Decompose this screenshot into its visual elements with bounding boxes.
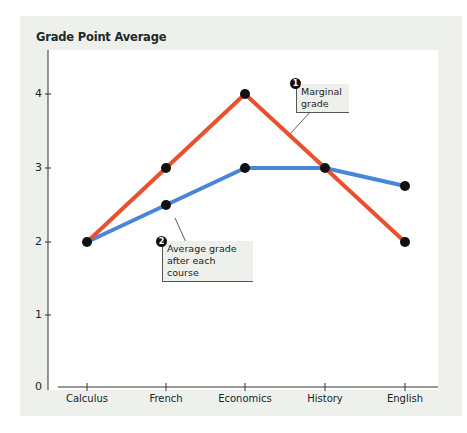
x-tick-label: History — [285, 393, 365, 404]
callout-text: grade — [301, 98, 343, 110]
y-tick-label: 3 — [28, 161, 42, 174]
marginal-leader-line — [290, 110, 312, 134]
marginal-grade-callout: Marginal grade — [296, 84, 349, 113]
y-tick-label: 1 — [28, 308, 42, 321]
average-grade-line — [87, 168, 405, 242]
x-tick-label: French — [126, 393, 206, 404]
x-tick-label: Calculus — [47, 393, 127, 404]
x-tick-label: Economics — [205, 393, 285, 404]
y-tick-label: 0 — [28, 380, 42, 393]
x-tick-label: English — [365, 393, 445, 404]
callout-text: Marginal — [301, 86, 343, 98]
chart-svg — [0, 0, 467, 433]
y-tick-label: 4 — [28, 87, 42, 100]
callout-text: after each course — [167, 255, 247, 279]
number-badge-2: 2 — [156, 236, 167, 247]
y-tick-label: 2 — [28, 235, 42, 248]
average-grade-callout: Average grade after each course — [162, 241, 253, 282]
callout-text: Average grade — [167, 243, 247, 255]
number-badge-1: 1 — [290, 78, 301, 89]
